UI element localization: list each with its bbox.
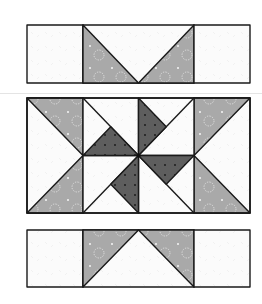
top-flying-geese xyxy=(83,25,194,83)
bottom-strip xyxy=(27,230,250,287)
top-strip xyxy=(27,25,250,83)
pinwheel-center xyxy=(83,98,194,213)
top-right-square xyxy=(194,25,250,83)
left-hourglass xyxy=(27,98,83,213)
top-left-square xyxy=(27,25,83,83)
quilt-diagram xyxy=(0,0,262,304)
bottom-right-square xyxy=(194,230,250,287)
bottom-left-square xyxy=(27,230,83,287)
center-row xyxy=(27,98,250,213)
right-hourglass xyxy=(194,98,250,213)
bottom-flying-geese xyxy=(83,230,194,287)
